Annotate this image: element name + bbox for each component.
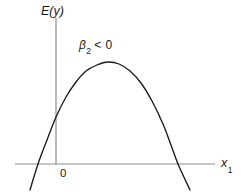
x-axis-label: x1 (221, 157, 232, 172)
origin-label: 0 (60, 168, 66, 180)
quadratic-curve-figure: E(y) x1 0 β2 < 0 (0, 0, 247, 195)
beta-relation: < 0 (91, 38, 113, 52)
beta2-negative-annotation: β2 < 0 (79, 39, 113, 54)
plot-canvas (0, 0, 247, 195)
x-axis-label-base: x (221, 156, 227, 170)
beta-subscript: 2 (86, 46, 91, 56)
y-axis-label: E(y) (41, 5, 64, 18)
beta-symbol: β (79, 38, 86, 52)
x-axis-label-subscript: 1 (228, 165, 233, 175)
parabola-curve (30, 62, 190, 190)
